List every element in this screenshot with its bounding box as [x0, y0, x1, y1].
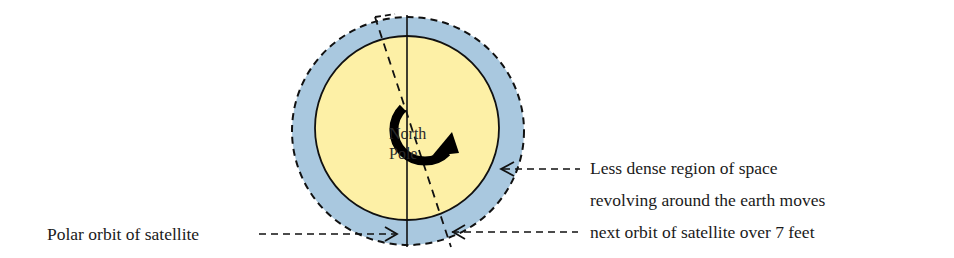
next-orbit-top-connector	[375, 14, 395, 17]
polar-orbit-label: Polar orbit of satellite	[47, 224, 199, 244]
less-dense-label-line2: revolving around the earth moves	[590, 190, 825, 210]
north-pole-label-line2: Pole	[389, 144, 426, 164]
less-dense-label-line1: Less dense region of space	[590, 158, 778, 178]
less-dense-label-line3: next orbit of satellite over 7 feet	[590, 222, 815, 242]
north-pole-label-line1: North	[389, 124, 426, 144]
north-pole-label: North Pole	[389, 124, 426, 164]
orbit-diagram	[0, 0, 954, 258]
